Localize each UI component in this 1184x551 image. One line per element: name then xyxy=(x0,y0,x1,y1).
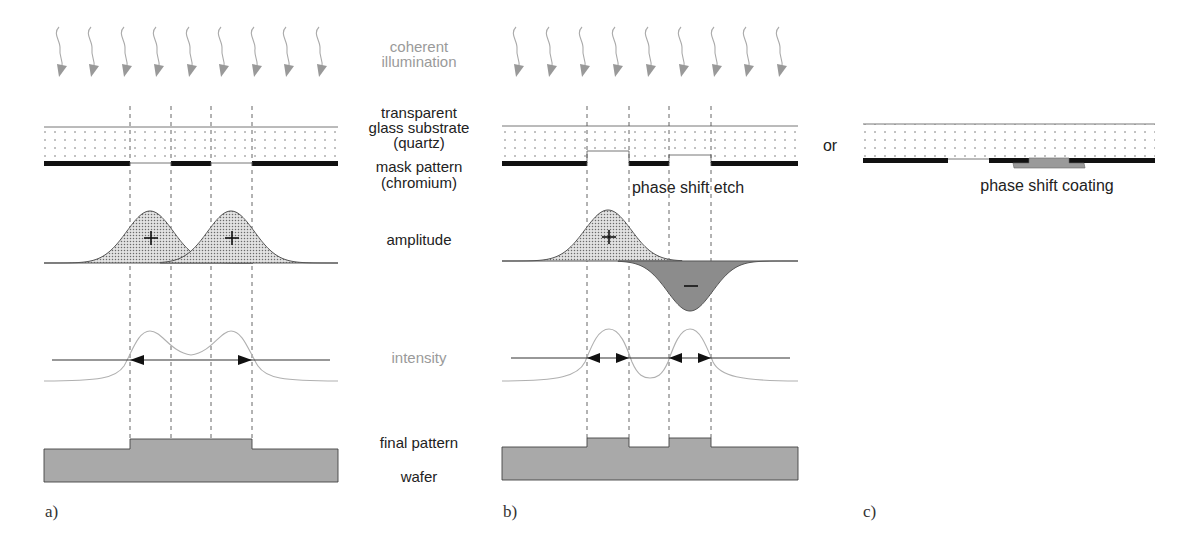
illumination-arrows-panel-b xyxy=(513,27,787,77)
arrowhead-left xyxy=(587,353,600,363)
intensity-panel-a xyxy=(44,331,338,381)
label-final-pattern: final pattern xyxy=(380,434,458,451)
label-phase-shift-coating: phase shift coating xyxy=(980,177,1113,194)
amplitude-panel-a xyxy=(44,211,338,263)
mask-panel-b xyxy=(502,126,798,166)
illumination-arrow-icon xyxy=(121,27,132,77)
phase-shift-etch-recess xyxy=(587,151,629,163)
illumination-arrow-icon xyxy=(153,27,164,77)
intensity-panel-b xyxy=(502,329,798,381)
illumination-arrow-icon xyxy=(316,27,327,77)
panel-c: or phase shift coating c) xyxy=(823,124,1155,521)
illumination-arrows-panel-a xyxy=(56,27,327,77)
label-wafer: wafer xyxy=(400,468,438,485)
illumination-arrow-icon xyxy=(711,27,722,77)
chrome-segment xyxy=(1069,158,1155,163)
panel-b: phase shift etch b) xyxy=(502,106,798,521)
panel-tag-b: b) xyxy=(503,502,517,521)
panel-a: a) xyxy=(44,106,338,521)
chrome-segment xyxy=(989,158,1029,163)
mask-panel-c xyxy=(863,124,1155,168)
chrome-segment xyxy=(44,161,130,166)
label-chromium: (chromium) xyxy=(381,174,457,191)
illumination-arrow-icon xyxy=(546,27,557,77)
chrome-segment xyxy=(171,161,211,166)
label-amplitude: amplitude xyxy=(386,231,451,248)
amplitude-negative-lobe xyxy=(618,261,798,311)
label-mask-pattern: mask pattern xyxy=(376,158,463,175)
chrome-segment xyxy=(252,161,338,166)
panel-tag-c: c) xyxy=(863,502,876,521)
illumination-arrow-icon xyxy=(283,27,294,77)
wafer-final-pattern xyxy=(44,439,338,482)
illumination-arrow-icon xyxy=(612,27,623,77)
illumination-arrow-icon xyxy=(743,27,754,77)
illumination-arrow-icon xyxy=(251,27,262,77)
arrowhead-right xyxy=(698,353,711,363)
arrowhead-right xyxy=(238,355,252,365)
illumination-arrow-icon xyxy=(645,27,656,77)
phase-shift-mask-diagram: coherent illumination transparent glass … xyxy=(0,0,1184,551)
arrowhead-left xyxy=(130,355,144,365)
illumination-arrow-icon xyxy=(579,27,590,77)
etch-recess xyxy=(669,155,711,163)
label-phase-shift-etch: phase shift etch xyxy=(632,179,744,196)
illumination-arrow-icon xyxy=(218,27,229,77)
chrome-segment xyxy=(502,161,587,166)
mask-panel-a xyxy=(44,127,338,166)
glass-substrate xyxy=(502,126,798,163)
glass-substrate xyxy=(44,127,338,163)
intensity-curve xyxy=(44,331,338,381)
label-illumination: illumination xyxy=(381,53,456,70)
amplitude-positive-lobe xyxy=(160,211,338,263)
intensity-curve xyxy=(502,329,798,381)
amplitude-panel-b xyxy=(502,210,798,311)
wafer-final-pattern xyxy=(502,438,798,480)
illumination-arrow-icon xyxy=(776,27,787,77)
chrome-segment xyxy=(711,161,798,166)
glass-substrate xyxy=(863,124,1155,160)
chrome-segment xyxy=(629,161,669,166)
label-quartz: (quartz) xyxy=(393,134,445,151)
panel-tag-a: a) xyxy=(45,502,58,521)
arrowhead-right xyxy=(616,353,629,363)
center-labels: coherent illumination transparent glass … xyxy=(369,38,470,485)
illumination-arrow-icon xyxy=(186,27,197,77)
illumination-arrow-icon xyxy=(513,27,524,77)
illumination-arrow-icon xyxy=(88,27,99,77)
label-or: or xyxy=(823,137,838,154)
label-intensity: intensity xyxy=(391,349,447,366)
chrome-segment xyxy=(863,158,948,163)
amplitude-positive-lobe xyxy=(502,210,682,261)
illumination-arrow-icon xyxy=(56,27,67,77)
illumination-arrow-icon xyxy=(678,27,689,77)
